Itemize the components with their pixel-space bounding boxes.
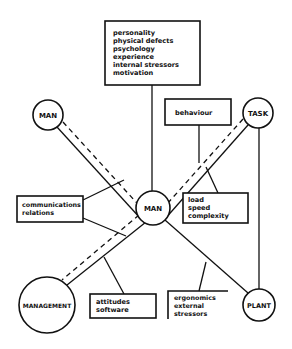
link-attitudes — [104, 257, 124, 294]
attitudes-text: attitudes software — [96, 298, 130, 314]
environment-text: ergonomics external stressors — [174, 294, 216, 318]
shell-model-diagram: MAN TASK MAN MANAGEMENT PLANT personalit… — [0, 0, 292, 349]
node-plant-label: PLANT — [247, 302, 271, 310]
svg-text:physical defects: physical defects — [113, 37, 173, 45]
node-man-center-label: MAN — [144, 205, 162, 213]
svg-text:external: external — [174, 302, 204, 310]
link-man-management-solid — [67, 222, 146, 285]
svg-text:psychology: psychology — [113, 45, 156, 53]
svg-text:stressors: stressors — [174, 310, 207, 318]
svg-text:ergonomics: ergonomics — [174, 294, 216, 302]
svg-text:communications: communications — [22, 201, 81, 209]
link-task-demands — [206, 167, 218, 193]
link-communications-lower — [83, 218, 126, 236]
svg-text:load: load — [188, 196, 204, 204]
node-management-label: MANAGEMENT — [23, 302, 72, 309]
link-environment — [199, 262, 206, 291]
svg-text:attitudes: attitudes — [96, 298, 130, 306]
svg-text:behaviour: behaviour — [175, 109, 213, 117]
svg-text:motivation: motivation — [113, 69, 154, 77]
svg-text:complexity: complexity — [188, 212, 229, 220]
node-task-label: TASK — [248, 110, 269, 118]
behaviour-text: behaviour — [175, 109, 213, 117]
node-man-top-label: MAN — [39, 112, 57, 120]
svg-text:relations: relations — [22, 209, 54, 217]
link-man-plant — [165, 220, 248, 293]
link-communications-upper — [83, 180, 124, 200]
svg-text:internal stressors: internal stressors — [113, 61, 179, 69]
svg-text:experience: experience — [113, 53, 155, 61]
svg-text:software: software — [96, 306, 129, 314]
svg-text:personality: personality — [113, 29, 156, 37]
svg-text:speed: speed — [188, 204, 211, 212]
